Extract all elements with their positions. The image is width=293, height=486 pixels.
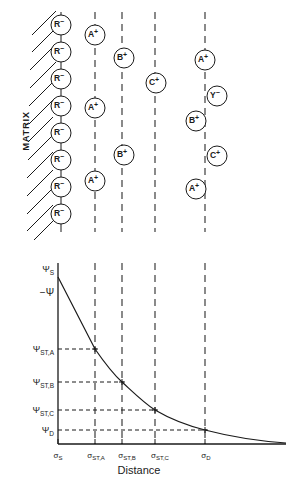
chart-horizontal-guides [58,349,207,430]
chart-vertical-guides [95,263,205,444]
ion-b-plus: B+ [186,111,206,131]
x-axis-title: Distance [118,464,161,476]
curve-intersection-markers [92,346,208,433]
figure-svg: MATRIX R− R− R− R− [0,0,293,486]
ion-c-plus: C+ [146,73,166,93]
ion-b-plus: B+ [114,48,134,68]
x-label-sigma-st-b: σST,B [118,451,136,461]
chart-axes [58,263,286,444]
matrix-label: MATRIX [20,111,31,150]
fixed-site-r-minus: R− [51,177,71,197]
fixed-site-r-minus: R− [51,15,71,35]
fixed-site-r-minus: R− [51,42,71,62]
x-axis-ticks [58,439,205,444]
x-label-sigma-st-c: σST,C [151,451,170,461]
ion-a-plus: A+ [85,98,105,118]
y-axis-title: −Ψ [40,287,54,298]
x-axis-labels: σS σST,A σST,B σST,C σD [54,451,212,461]
y-label-psi-st-b: ΨST,B [33,377,54,389]
matrix-panel: MATRIX R− R− R− R− [20,11,227,240]
ion-column-sigma-d: A+ Y− B+ C+ A+ [186,50,227,199]
ion-y-minus: Y− [207,86,227,106]
x-label-sigma-s: σS [54,451,63,461]
ion-column-sigma-st-b: B+ B+ [114,48,134,165]
ion-column-sigma-st-c: C+ [146,73,166,93]
fixed-site-r-minus: R− [51,96,71,116]
x-label-sigma-d: σD [201,451,211,461]
y-label-psi-d: ΨD [42,425,55,437]
y-label-psi-s: ΨS [42,264,55,276]
y-axis-labels: ΨS −Ψ ΨST,A ΨST,B ΨST,C ΨD [32,264,54,437]
fixed-site-r-minus: R− [51,123,71,143]
ion-a-plus: A+ [195,50,215,70]
y-label-psi-st-c: ΨST,C [32,405,54,417]
figure-root: MATRIX R− R− R− R− [0,0,293,486]
fixed-site-r-minus: R− [51,204,71,224]
x-label-sigma-st-a: σST,A [87,451,105,461]
ion-c-plus: C+ [207,146,227,166]
ion-a-plus: A+ [85,25,105,45]
fixed-site-r-minus: R− [51,69,71,89]
ion-b-plus: B+ [114,145,134,165]
fixed-site-r-minus: R− [51,150,71,170]
potential-chart-panel: ΨS −Ψ ΨST,A ΨST,B ΨST,C ΨD σS [32,263,286,476]
y-label-psi-st-a: ΨST,A [33,344,55,356]
ion-a-plus: A+ [186,179,206,199]
potential-curve [58,277,286,443]
ion-a-plus: A+ [85,171,105,191]
